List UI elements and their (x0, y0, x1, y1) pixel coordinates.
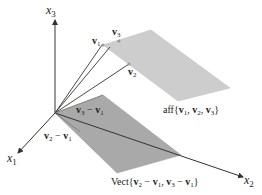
x3-axis-label: x3 (45, 3, 56, 19)
x2-axis (55, 113, 243, 177)
point-v2-minus-v1 (78, 130, 81, 133)
diagram-canvas: x3 x1 x2 v1 v3 v2 v3 − v1 v2 − v1 aff{v1… (0, 0, 262, 195)
x2-axis-label: x2 (243, 173, 254, 189)
x1-axis (18, 113, 55, 153)
v1-label: v1 (92, 35, 101, 48)
affine-plane (103, 30, 230, 101)
v3-label: v3 (112, 26, 121, 39)
v2-minus-v1-label: v2 − v1 (44, 130, 72, 143)
point-v3 (117, 39, 120, 42)
vect-plane-label: Vect{v2 − v1, v3 − v1} (111, 176, 199, 189)
affine-plane-label: aff{v1, v2, v3} (163, 104, 219, 117)
x1-axis-label: x1 (6, 151, 17, 167)
point-v1 (101, 43, 104, 46)
